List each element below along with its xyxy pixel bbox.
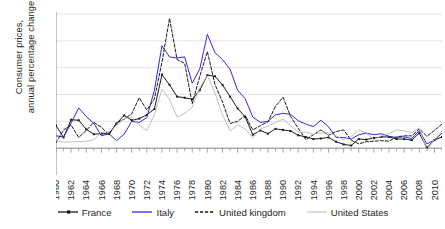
x-tick-label: 1972 — [142, 180, 152, 200]
series-marker — [267, 133, 269, 135]
series-marker — [78, 119, 80, 121]
series-marker — [184, 97, 186, 99]
series-marker — [335, 141, 337, 143]
series-marker — [237, 107, 239, 109]
series-marker — [153, 108, 155, 110]
x-tick-label: 1978 — [187, 180, 197, 200]
legend-swatch-united-kingdom-icon — [194, 207, 216, 217]
x-tick-label: 1990 — [278, 180, 288, 200]
legend-item-united-kingdom[interactable]: United kingdom — [194, 207, 286, 218]
legend-label: United kingdom — [219, 207, 286, 218]
series-line-united-states — [56, 76, 442, 151]
legend-label: United States — [331, 207, 389, 218]
series-marker — [222, 84, 224, 86]
x-tick-label: 1980 — [203, 180, 213, 200]
legend-item-united-states[interactable]: United States — [306, 207, 389, 218]
x-tick-label: 1984 — [233, 180, 243, 200]
series-marker — [176, 96, 178, 98]
series-marker — [161, 74, 163, 76]
x-tick-label: 1974 — [157, 180, 167, 200]
legend-item-france[interactable]: France — [57, 207, 112, 218]
chart-figure: Consumer prices, annual percentage chang… — [0, 0, 445, 229]
series-marker — [229, 96, 231, 98]
series-marker — [123, 114, 125, 116]
axis-spines — [56, 12, 442, 175]
legend-item-italy[interactable]: Italy — [131, 207, 174, 218]
x-tick-label: 1994 — [309, 180, 319, 200]
legend-label: France — [82, 207, 112, 218]
x-tick-label: 1968 — [112, 180, 122, 200]
series-marker — [138, 118, 140, 120]
series-marker — [343, 143, 345, 145]
series-marker — [290, 130, 292, 132]
series-marker — [282, 129, 284, 131]
series-marker — [274, 128, 276, 130]
series-marker — [396, 138, 398, 140]
series-marker — [411, 139, 413, 141]
series-marker — [327, 136, 329, 138]
y-axis-title-line-1: Consumer prices, — [14, 0, 26, 132]
legend-swatch-italy-icon — [131, 207, 153, 217]
plot-area: −50510152025 196019621964196619681970197… — [56, 10, 442, 178]
series-marker — [403, 138, 405, 140]
series-marker — [358, 138, 360, 140]
x-tick-label: 1976 — [172, 180, 182, 200]
x-tick-label: 1960 — [56, 180, 61, 200]
series-line-france — [56, 75, 442, 148]
legend-swatch-united-states-icon — [306, 207, 328, 217]
x-tick-label: 2004 — [384, 180, 394, 200]
series-marker — [70, 119, 72, 121]
x-tick-label: 1982 — [218, 180, 228, 200]
x-tick-label: 1998 — [339, 180, 349, 200]
series-marker — [365, 139, 367, 141]
x-tick-label: 1986 — [248, 180, 258, 200]
x-axis-ticks — [56, 148, 442, 153]
series-marker — [214, 75, 216, 77]
x-tick-label: 2002 — [369, 180, 379, 200]
series-marker — [93, 133, 95, 135]
data-series-group — [56, 18, 442, 150]
x-tick-label: 1970 — [127, 180, 137, 200]
x-tick-label: 1992 — [293, 180, 303, 200]
y-axis-title: Consumer prices, annual percentage chang… — [14, 0, 44, 132]
x-tick-label: 1962 — [66, 180, 76, 200]
x-tick-label: 1966 — [97, 180, 107, 200]
legend-label: Italy — [156, 207, 174, 218]
x-tick-label: 2008 — [414, 180, 424, 200]
x-tick-label: 2006 — [399, 180, 409, 200]
series-marker — [350, 144, 352, 146]
x-tick-label: 1996 — [324, 180, 334, 200]
chart-legend: FranceItalyUnited kingdomUnited States — [0, 202, 445, 222]
series-marker — [297, 134, 299, 136]
series-marker — [320, 138, 322, 140]
x-tick-label: 1964 — [81, 180, 91, 200]
series-marker — [441, 136, 442, 138]
legend-swatch-france-icon — [57, 207, 79, 217]
series-marker — [169, 84, 171, 86]
series-marker — [56, 125, 57, 127]
x-tick-label: 2000 — [354, 180, 364, 200]
line-chart-svg: −50510152025 — [56, 10, 442, 178]
series-marker — [312, 138, 314, 140]
series-marker — [252, 134, 254, 136]
series-marker — [305, 136, 307, 138]
x-tick-label: 1988 — [263, 180, 273, 200]
x-tick-label: 2010 — [430, 180, 440, 200]
y-axis-title-line-2: annual percentage change — [26, 0, 38, 132]
